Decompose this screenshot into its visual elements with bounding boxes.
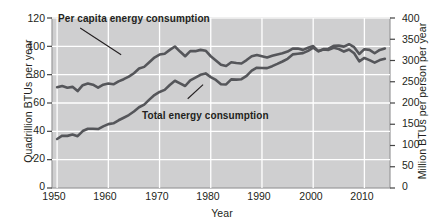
annotation-total-energy-consumption: Total energy consumption <box>142 110 269 121</box>
y-axis-left-tickmarks <box>47 18 52 188</box>
annotation-per-capita-energy-consumption: Per capita energy consumption <box>58 13 210 24</box>
chart-figure: Quadrillion BTUs per year Million BTUs p… <box>0 0 444 223</box>
y-axis-right-tickmarks <box>390 18 395 188</box>
